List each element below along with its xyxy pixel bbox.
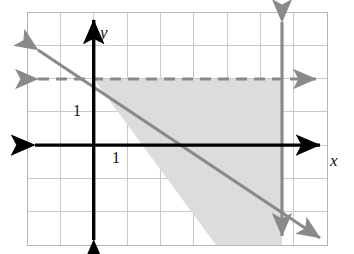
x-axis-tick-label-1: 1 [112, 150, 120, 166]
y-axis-label: y [100, 24, 108, 41]
y-axis-tick-label-1: 1 [73, 103, 81, 119]
x-axis-label: x [330, 152, 338, 169]
plot-canvas [0, 0, 354, 254]
graph-figure: y x 1 1 [0, 0, 354, 254]
